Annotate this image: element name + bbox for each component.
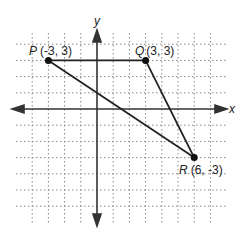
y-axis-down-arrow-icon — [93, 214, 101, 226]
x-axis-right-arrow-icon — [215, 105, 227, 113]
x-axis-label: x — [228, 102, 236, 116]
point-q-label: Q(3, 3) — [135, 44, 174, 58]
point-p-label: P(-3, 3) — [29, 44, 72, 58]
y-axis-up-arrow-icon — [93, 30, 101, 42]
point-r-label: R(6, -3) — [179, 163, 223, 177]
y-axis-label: y — [93, 14, 101, 28]
y-axis — [93, 30, 101, 226]
coordinate-plane-figure: x y P(-3, 3) Q(3, 3) R(6, -3) — [0, 0, 247, 238]
point-r — [191, 154, 198, 161]
x-axis — [12, 105, 227, 113]
x-axis-left-arrow-icon — [12, 105, 24, 113]
